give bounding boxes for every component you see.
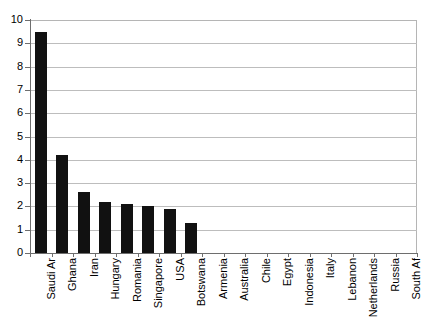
x-axis-tick: [374, 253, 375, 257]
y-axis-tick-label: 10: [0, 14, 23, 25]
x-axis-tick-label-text: Australia: [239, 258, 250, 301]
x-axis-tick-label: Egypt: [282, 258, 293, 286]
x-axis-tick-label: South Af: [411, 258, 422, 300]
x-axis-tick-label: Saudi Ar: [46, 258, 57, 300]
y-axis-tick-label: 6: [0, 107, 23, 118]
x-axis-tick: [417, 253, 418, 257]
x-axis-tick-label-text: Iran: [89, 258, 100, 277]
y-axis-tick: [25, 206, 30, 207]
x-axis-tick: [288, 253, 289, 257]
bar: [99, 202, 111, 253]
bar: [56, 155, 68, 253]
x-axis-tick-label: Romania: [132, 258, 143, 302]
x-axis-tick-label: Hungary: [110, 258, 121, 300]
y-axis-tick: [25, 183, 30, 184]
y-axis-tick-label: 0: [0, 247, 23, 258]
x-axis-tick-label: Ghana: [67, 258, 78, 291]
x-axis-tick-label: Netherlands: [368, 258, 379, 317]
y-axis-tick: [25, 67, 30, 68]
x-axis-tick-label: Botswana: [196, 258, 207, 306]
bar: [142, 206, 154, 253]
gridline: [30, 160, 417, 161]
x-axis-tick: [138, 253, 139, 257]
x-axis-tick: [310, 253, 311, 257]
x-axis-tick-label: Armenia: [218, 258, 229, 299]
x-axis-tick-label-text: Hungary: [110, 258, 121, 300]
bar-chart: 012345678910 Saudi ArGhanaIranHungaryRom…: [0, 0, 440, 326]
x-axis-tick-label-text: Singapore: [153, 258, 164, 308]
x-axis-tick-label-text: Lebanon: [347, 258, 358, 301]
y-axis-tick-label: 9: [0, 37, 23, 48]
gridline: [30, 90, 417, 91]
y-axis-tick-label: 2: [0, 200, 23, 211]
y-axis-tick: [25, 137, 30, 138]
x-axis-tick: [396, 253, 397, 257]
y-axis-tick: [25, 90, 30, 91]
x-axis-tick-label-text: Botswana: [196, 258, 207, 306]
bar: [35, 32, 47, 253]
x-axis-tick: [73, 253, 74, 257]
x-axis-tick-label-text: Italy: [325, 258, 336, 278]
gridline: [30, 137, 417, 138]
y-axis-tick-label: 3: [0, 177, 23, 188]
y-axis-tick: [25, 113, 30, 114]
gridline: [30, 67, 417, 68]
x-axis-tick: [245, 253, 246, 257]
x-axis-tick: [331, 253, 332, 257]
x-axis-tick-label-text: Egypt: [282, 258, 293, 286]
y-axis-tick-label: 5: [0, 131, 23, 142]
x-axis-tick: [52, 253, 53, 257]
y-axis-tick-label: 1: [0, 224, 23, 235]
y-axis-tick: [25, 43, 30, 44]
y-axis-tick: [25, 20, 30, 21]
x-axis-tick-label: Chile: [261, 258, 272, 283]
bar: [121, 204, 133, 253]
gridline: [30, 43, 417, 44]
x-axis-tick-label: Italy: [325, 258, 336, 278]
x-axis-tick-label-text: Netherlands: [368, 258, 379, 317]
x-axis-tick: [202, 253, 203, 257]
x-axis-tick: [353, 253, 354, 257]
x-axis-tick-label-text: Saudi Ar: [46, 258, 57, 300]
x-axis-tick-label-text: Romania: [132, 258, 143, 302]
bar: [185, 223, 197, 253]
y-axis-tick: [25, 160, 30, 161]
x-axis-tick: [267, 253, 268, 257]
y-axis-tick: [25, 230, 30, 231]
x-axis-tick-label-text: Indonesia: [304, 258, 315, 306]
x-axis-tick-label: USA: [175, 258, 186, 281]
x-axis-tick-label-text: Chile: [261, 258, 272, 283]
x-axis-tick-label: Singapore: [153, 258, 164, 308]
x-axis-tick-label-text: Ghana: [67, 258, 78, 291]
x-axis-tick-label-text: USA: [175, 258, 186, 281]
x-axis-tick: [95, 253, 96, 257]
x-axis-tick-label-text: South Af: [411, 258, 422, 300]
x-axis-tick-label: Iran: [89, 258, 100, 277]
y-axis-tick-label: 4: [0, 154, 23, 165]
x-axis-tick: [159, 253, 160, 257]
x-axis-tick-label: Lebanon: [347, 258, 358, 301]
y-axis-tick-label: 8: [0, 61, 23, 72]
x-axis-tick-label-text: Russia: [390, 258, 401, 292]
bar: [78, 192, 90, 253]
x-axis-tick-label: Russia: [390, 258, 401, 292]
x-axis-tick: [116, 253, 117, 257]
gridline: [30, 183, 417, 184]
bar: [164, 209, 176, 253]
x-axis-tick-label: Indonesia: [304, 258, 315, 306]
y-axis-tick-label: 7: [0, 84, 23, 95]
x-axis-tick: [30, 253, 31, 257]
y-axis-line: [30, 19, 31, 254]
x-axis-tick-label-text: Armenia: [218, 258, 229, 299]
x-axis-tick-label: Australia: [239, 258, 250, 301]
x-axis-tick: [224, 253, 225, 257]
x-axis-tick: [181, 253, 182, 257]
gridline: [30, 113, 417, 114]
